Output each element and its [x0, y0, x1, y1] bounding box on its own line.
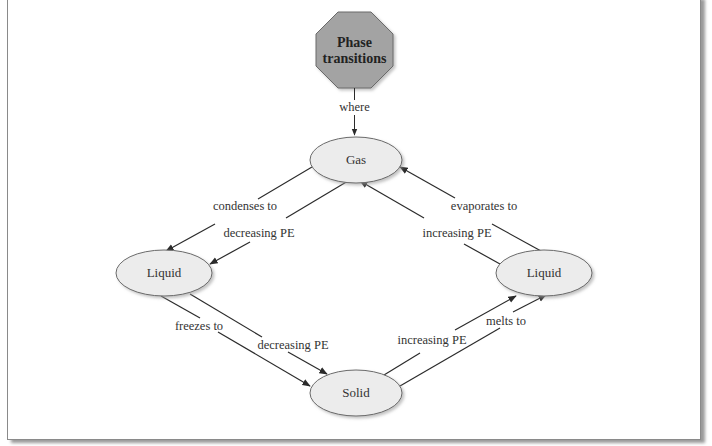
where-link: where: [339, 88, 370, 135]
melts-label: melts to: [486, 314, 526, 328]
title-node-line1: Phase: [337, 35, 372, 50]
solid-node: Solid: [310, 370, 402, 416]
phase-transitions-node: Phase transitions: [316, 12, 393, 88]
freezes-pe-label: decreasing PE: [257, 338, 329, 352]
liquid-left-label: Liquid: [147, 265, 182, 280]
edge-freezes-pe: decreasing PE: [190, 294, 329, 374]
liquid-right-label: Liquid: [527, 265, 562, 280]
melts-pe-label: increasing PE: [397, 333, 466, 347]
edge-condenses-pe: decreasing PE: [210, 181, 348, 264]
condenses-label: condenses to: [213, 199, 277, 213]
liquid-right-node: Liquid: [496, 250, 592, 296]
solid-label: Solid: [342, 385, 370, 400]
title-node-line2: transitions: [323, 51, 387, 66]
gas-label: Gas: [346, 152, 366, 167]
freezes-label: freezes to: [175, 319, 223, 333]
evaporates-pe-label: increasing PE: [422, 226, 491, 240]
edge-evaporates-pe: increasing PE: [360, 181, 500, 264]
gas-node: Gas: [310, 137, 402, 183]
where-label: where: [339, 100, 370, 114]
edge-melts-pe: increasing PE: [384, 296, 516, 375]
condenses-pe-label: decreasing PE: [223, 226, 295, 240]
concept-map: Phase transitions where condenses to dec…: [0, 0, 712, 446]
liquid-left-node: Liquid: [116, 250, 212, 296]
evaporates-label: evaporates to: [451, 199, 517, 213]
